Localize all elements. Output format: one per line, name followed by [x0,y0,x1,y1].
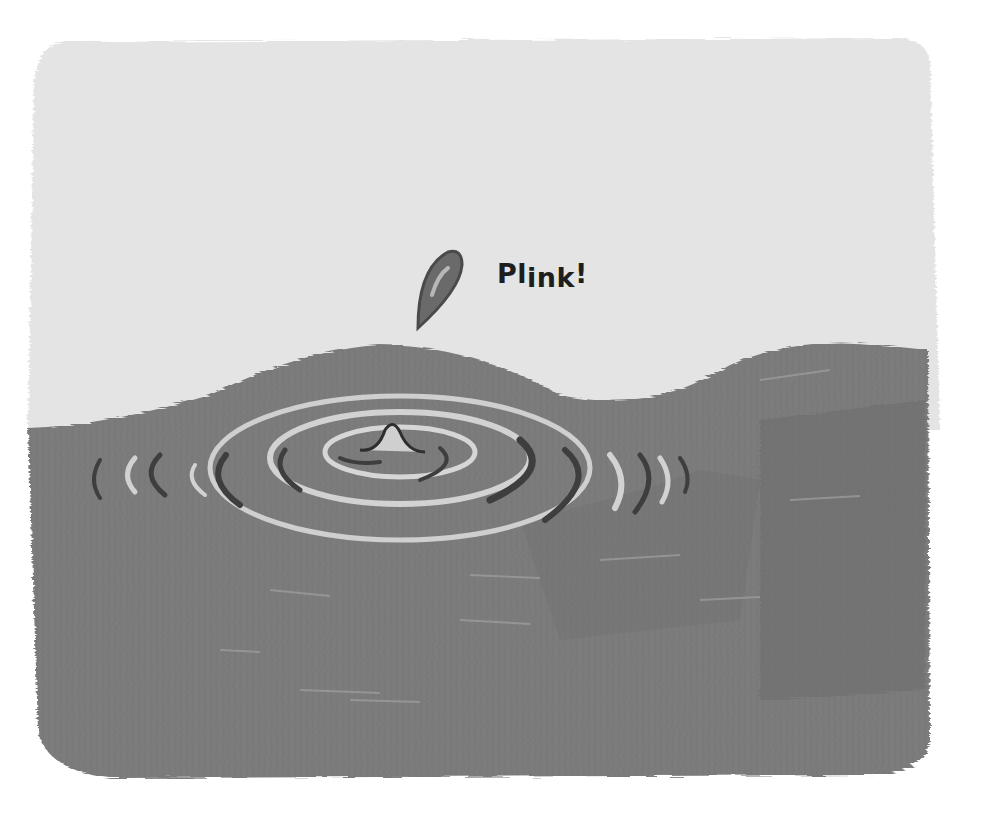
sound-effect-text: Plink! [497,258,588,289]
painted-illustration [0,0,992,826]
sound-text-lowered: ink [527,262,575,293]
sound-text-prefix: Pl [497,258,527,289]
sound-text-suffix: ! [575,258,588,289]
